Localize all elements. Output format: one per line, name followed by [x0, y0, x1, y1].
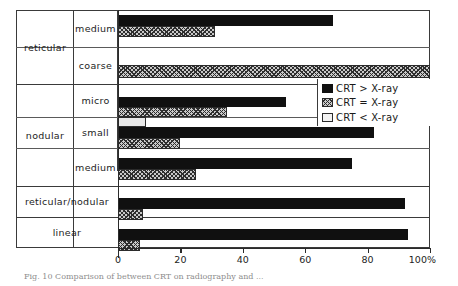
- axis-tick-20: [180, 248, 181, 253]
- bar-eq-nodular-small: [118, 138, 180, 149]
- sub-label-nodular-medium: medium: [74, 148, 117, 186]
- light-open-swatch-icon: [322, 113, 333, 122]
- sub-label-nodular-small: small: [74, 117, 117, 148]
- axis-ticklabel-40: 40: [237, 254, 249, 265]
- bar-lt-nodular-micro: [118, 117, 146, 127]
- sub-label-reticular-coarse: coarse: [74, 47, 117, 84]
- sub-label-nodular-micro: micro: [74, 84, 117, 117]
- bar-eq-reticular-coarse: [118, 65, 430, 78]
- axis-tick-100: [430, 248, 431, 253]
- bar-gt-nodular-small: [118, 127, 374, 138]
- plot-area: [118, 10, 430, 248]
- bar-gt-linear: [118, 229, 408, 240]
- axis-tick-80: [368, 248, 369, 253]
- bar-eq-reticular-medium: [118, 26, 215, 37]
- bar-gt-nodular-micro: [118, 97, 286, 107]
- sub-label-reticular-medium: medium: [74, 10, 117, 47]
- hatched-grey-swatch-icon: [322, 98, 333, 107]
- axis-tick-0: [118, 248, 119, 253]
- axis-zero-line: [118, 10, 119, 258]
- axis-ticklabel-0: 0: [115, 254, 121, 265]
- bar-gt-reticular-nodular: [118, 198, 405, 209]
- axis-bottom-line: [118, 248, 430, 249]
- bar-eq-reticular-nodular: [118, 209, 143, 220]
- axis-ticklabel-80: 80: [362, 254, 374, 265]
- legend-item-eq: CRT = X-ray: [322, 96, 430, 111]
- comparison-bar-chart-figure: reticular nodular reticular/nodular line…: [0, 0, 458, 286]
- legend-label-lt: CRT < X-ray: [336, 112, 398, 123]
- group-label-reticular-nodular: reticular/nodular: [17, 186, 117, 217]
- figure-caption: Fig. 10 Comparison of between CRT on rad…: [24, 272, 444, 281]
- bar-gt-reticular-medium: [118, 15, 333, 26]
- axis-tick-60: [305, 248, 306, 253]
- axis-ticklabel-60: 60: [299, 254, 311, 265]
- bar-eq-nodular-medium: [118, 169, 196, 180]
- solid-black-swatch-icon: [322, 84, 333, 93]
- group-label-linear: linear: [17, 217, 117, 248]
- axis-ticklabel-100: 100%: [409, 254, 436, 265]
- group-label-reticular: reticular: [17, 10, 73, 84]
- legend: CRT > X-ray CRT = X-ray CRT < X-ray: [317, 79, 430, 126]
- bar-eq-nodular-micro: [118, 107, 227, 117]
- legend-item-gt: CRT > X-ray: [322, 81, 430, 96]
- bar-gt-nodular-medium: [118, 158, 352, 169]
- legend-item-lt: CRT < X-ray: [322, 110, 430, 125]
- group-label-nodular: nodular: [17, 84, 73, 186]
- axis-ticklabel-20: 20: [174, 254, 186, 265]
- axis-tick-40: [243, 248, 244, 253]
- legend-label-eq: CRT = X-ray: [336, 97, 398, 108]
- legend-label-gt: CRT > X-ray: [336, 83, 398, 94]
